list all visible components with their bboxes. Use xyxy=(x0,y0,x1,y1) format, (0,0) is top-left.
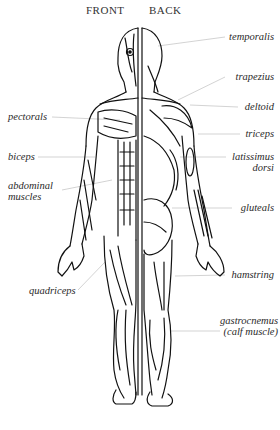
back-heading: BACK xyxy=(149,4,182,16)
label-pectorals: pectorals xyxy=(8,111,47,122)
muscle-diagram: FRONT BACK pectorals biceps abdominal mu… xyxy=(0,0,280,430)
body-drawing xyxy=(58,28,224,406)
label-abdominal-line2: muscles xyxy=(8,191,53,202)
label-latissimus-line1: latissimus xyxy=(232,151,274,162)
label-abdominal-line1: abdominal xyxy=(8,180,53,191)
label-triceps: triceps xyxy=(245,128,274,139)
label-latissimus-dorsi: latissimus dorsi xyxy=(232,151,274,173)
body-outline-illustration xyxy=(0,0,280,430)
label-quadriceps: quadriceps xyxy=(29,285,76,296)
label-trapezius: trapezius xyxy=(235,71,274,82)
label-gluteals: gluteals xyxy=(241,202,274,213)
label-gastrocnemus: gastrocnemus (calf muscle) xyxy=(220,315,278,337)
label-abdominal-muscles: abdominal muscles xyxy=(8,180,53,202)
label-latissimus-line2: dorsi xyxy=(232,162,274,173)
front-heading: FRONT xyxy=(86,4,125,16)
label-gastrocnemus-line2: (calf muscle) xyxy=(220,326,278,337)
label-gastrocnemus-line1: gastrocnemus xyxy=(220,315,278,326)
label-deltoid: deltoid xyxy=(245,101,274,112)
label-temporalis: temporalis xyxy=(229,31,274,42)
label-hamstring: hamstring xyxy=(231,269,274,280)
label-biceps: biceps xyxy=(8,151,35,162)
